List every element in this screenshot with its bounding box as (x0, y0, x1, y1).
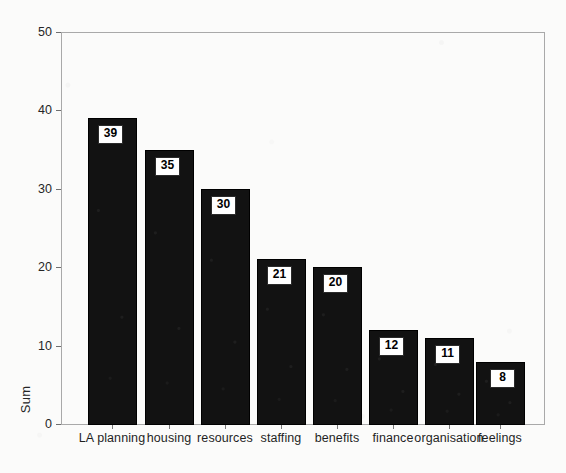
bar-value-organisation: 11 (435, 345, 460, 364)
bar-la-planning[interactable] (88, 118, 137, 425)
bar-housing[interactable] (145, 150, 194, 425)
x-tick-mark-benefits (337, 425, 338, 429)
x-tick-mark-la-planning (112, 425, 113, 429)
x-tick-mark-feelings (500, 425, 501, 429)
y-tick-label-10: 10 (12, 339, 52, 353)
x-tick-mark-housing (169, 425, 170, 429)
x-tick-mark-resources (225, 425, 226, 429)
chart-page: 50 40 30 20 10 0 Sum 39 35 30 21 20 12 1… (0, 0, 566, 473)
x-category-label-feelings: feelings (460, 431, 540, 445)
y-tick-label-50: 50 (12, 25, 52, 39)
bar-value-housing: 35 (155, 157, 180, 176)
x-tick-mark-staffing (281, 425, 282, 429)
y-axis-title: Sum (18, 370, 33, 430)
bar-value-staffing: 21 (267, 266, 292, 285)
x-tick-mark-organisation (449, 425, 450, 429)
bar-value-la-planning: 39 (98, 125, 123, 144)
bar-value-finance: 12 (379, 337, 404, 356)
y-tick-label-30: 30 (12, 182, 52, 196)
y-tick-label-20: 20 (12, 260, 52, 274)
bar-value-resources: 30 (211, 196, 236, 215)
bar-resources[interactable] (201, 189, 250, 425)
y-tick-label-40: 40 (12, 103, 52, 117)
bar-value-benefits: 20 (323, 274, 348, 293)
x-tick-mark-finance (393, 425, 394, 429)
bar-value-feelings: 8 (490, 369, 515, 388)
